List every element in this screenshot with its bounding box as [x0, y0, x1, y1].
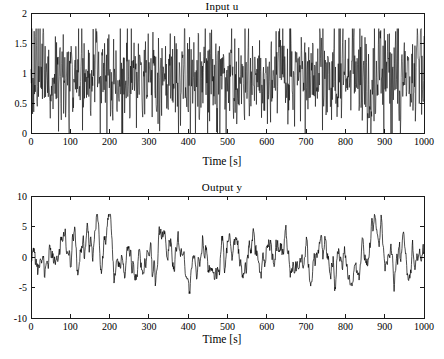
- x-tick-label: 500: [220, 136, 235, 147]
- x-tick-label: 200: [102, 136, 117, 147]
- x-tick-label: 700: [299, 321, 314, 332]
- x-tick-label: 1000: [414, 136, 434, 147]
- x-tick-label: 100: [63, 321, 78, 332]
- x-tick-label: 1000: [414, 321, 434, 332]
- series-line-output-y: [31, 214, 424, 293]
- x-tick-label: 300: [141, 321, 156, 332]
- plot-area-input-u: 0100200300400500600700800900100000.511.5…: [0, 0, 444, 180]
- chart-panel-input-u: Input u 01002003004005006007008009001000…: [0, 0, 444, 180]
- x-tick-label: 200: [102, 321, 117, 332]
- y-tick-label: 10: [17, 191, 27, 202]
- x-tick-label: 700: [299, 136, 314, 147]
- x-tick-label: 800: [338, 136, 353, 147]
- y-tick-label: 0: [22, 252, 27, 263]
- x-axis-label-input-u: Time [s]: [0, 154, 444, 168]
- chart-panel-output-y: Output y 0100200300400500600700800900100…: [0, 180, 444, 359]
- y-tick-label: 1.5: [15, 38, 28, 49]
- x-axis-label-output-y: Time [s]: [0, 332, 444, 346]
- x-tick-label: 900: [377, 136, 392, 147]
- x-tick-label: 0: [29, 321, 34, 332]
- x-tick-label: 100: [63, 136, 78, 147]
- x-tick-label: 900: [377, 321, 392, 332]
- y-tick-label: -10: [14, 313, 27, 324]
- y-tick-label: 1: [22, 68, 27, 79]
- x-tick-label: 400: [181, 321, 196, 332]
- x-tick-label: 300: [141, 136, 156, 147]
- x-tick-label: 600: [259, 321, 274, 332]
- y-tick-label: 0.5: [15, 98, 28, 109]
- y-tick-label: 2: [22, 8, 27, 19]
- y-tick-label: 5: [22, 221, 27, 232]
- y-tick-label: 0: [22, 128, 27, 139]
- x-tick-label: 800: [338, 321, 353, 332]
- series-line-input-u: [31, 29, 424, 133]
- x-tick-label: 500: [220, 321, 235, 332]
- figure-two-panel-timeseries: Input u 01002003004005006007008009001000…: [0, 0, 444, 359]
- x-tick-label: 400: [181, 136, 196, 147]
- y-tick-label: -5: [19, 282, 27, 293]
- x-tick-label: 600: [259, 136, 274, 147]
- x-tick-label: 0: [29, 136, 34, 147]
